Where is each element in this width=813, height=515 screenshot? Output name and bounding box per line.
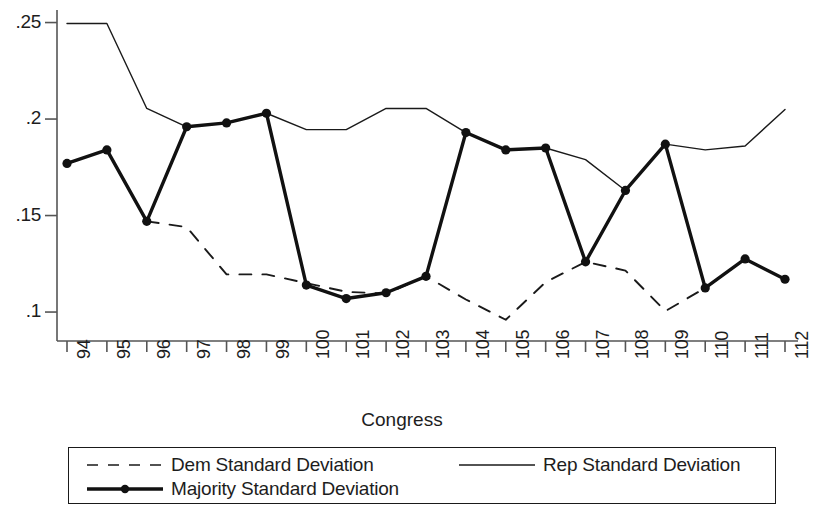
x-axis-title: Congress <box>0 409 804 431</box>
x-axis-tick-label: 100 <box>313 330 334 359</box>
x-axis-tick-label: 94 <box>74 339 95 359</box>
legend-label-dem: Dem Standard Deviation <box>171 454 374 476</box>
x-axis-tick-label: 112 <box>792 331 813 359</box>
data-series-layer <box>62 24 789 320</box>
series-majority <box>62 109 789 303</box>
data-point-marker <box>541 143 550 152</box>
legend-sample-dem-dashed-line <box>85 455 165 475</box>
legend-entry-majority[interactable]: Majority Standard Deviation <box>85 477 399 501</box>
series-line <box>67 113 785 298</box>
x-axis-tick-label: 96 <box>154 339 175 359</box>
data-point-marker <box>701 283 710 292</box>
axis-lines <box>57 10 798 341</box>
x-axis-tick-label: 106 <box>553 330 574 359</box>
x-axis-tick-label: 97 <box>194 339 215 359</box>
data-point-marker <box>262 109 271 118</box>
data-point-marker <box>302 280 311 289</box>
y-axis-tick-label: .2 <box>0 107 41 129</box>
data-point-marker <box>581 257 590 266</box>
x-axis-tick-label: 109 <box>672 330 693 359</box>
legend-sample-rep-solid-line <box>457 455 537 475</box>
data-point-marker <box>102 145 111 154</box>
x-axis-tick-label: 104 <box>473 330 494 359</box>
y-axis-tick-label: .25 <box>0 11 41 33</box>
x-axis-tick-label: 102 <box>393 330 414 359</box>
x-axis-tick-label: 98 <box>234 339 255 359</box>
y-axis-ticks <box>45 23 57 313</box>
data-point-marker <box>142 217 151 226</box>
data-point-marker <box>461 128 470 137</box>
legend-entry-dem[interactable]: Dem Standard Deviation <box>85 453 374 477</box>
x-axis-tick-label: 105 <box>513 330 534 359</box>
y-axis-tick-label: .1 <box>0 300 41 322</box>
series-line <box>67 24 785 191</box>
legend-sample-majority-marker-line <box>85 479 165 499</box>
x-axis-tick-label: 101 <box>353 330 374 359</box>
data-point-marker <box>501 145 510 154</box>
data-point-marker <box>182 122 191 131</box>
data-point-marker <box>661 140 670 149</box>
x-axis-tick-label: 111 <box>752 332 773 359</box>
data-point-marker <box>780 275 789 284</box>
x-axis-tick-label: 107 <box>593 330 614 359</box>
data-point-marker <box>382 288 391 297</box>
series-rep <box>67 24 785 191</box>
data-point-marker <box>222 118 231 127</box>
chart-legend: Dem Standard Deviation Rep Standard Devi… <box>68 447 776 504</box>
y-axis-tick-label: .15 <box>0 204 41 226</box>
data-point-marker <box>342 294 351 303</box>
data-point-marker <box>62 159 71 168</box>
x-axis-tick-label: 95 <box>114 339 135 359</box>
data-point-marker <box>621 186 630 195</box>
x-axis-tick-label: 108 <box>632 330 653 359</box>
data-point-marker <box>741 254 750 263</box>
legend-label-rep: Rep Standard Deviation <box>543 454 740 476</box>
legend-entry-rep[interactable]: Rep Standard Deviation <box>457 453 740 477</box>
x-axis-tick-label: 99 <box>273 339 294 359</box>
x-axis-tick-label: 103 <box>433 330 454 359</box>
data-point-marker <box>421 272 430 281</box>
legend-label-majority: Majority Standard Deviation <box>171 478 399 500</box>
x-axis-tick-label: 110 <box>712 331 733 359</box>
